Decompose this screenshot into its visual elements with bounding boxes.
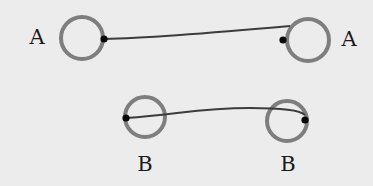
ring-a-left [61,17,103,59]
ring-a-right [287,19,329,61]
label-a-right: A [341,29,356,50]
string-b [126,108,305,118]
label-a-left: A [29,27,44,48]
diagram-svg [0,0,373,186]
dot-a-right [279,36,286,43]
dot-b-right [301,116,308,123]
dot-a-left [100,35,107,42]
dot-b-left [122,114,129,121]
ring-b-right [267,101,307,141]
pair-a [61,17,329,61]
pair-b [122,97,308,141]
label-b-left: B [137,154,152,175]
string-a [104,26,290,39]
label-b-right: B [280,154,295,175]
ring-diagram: A A B B [0,0,373,186]
